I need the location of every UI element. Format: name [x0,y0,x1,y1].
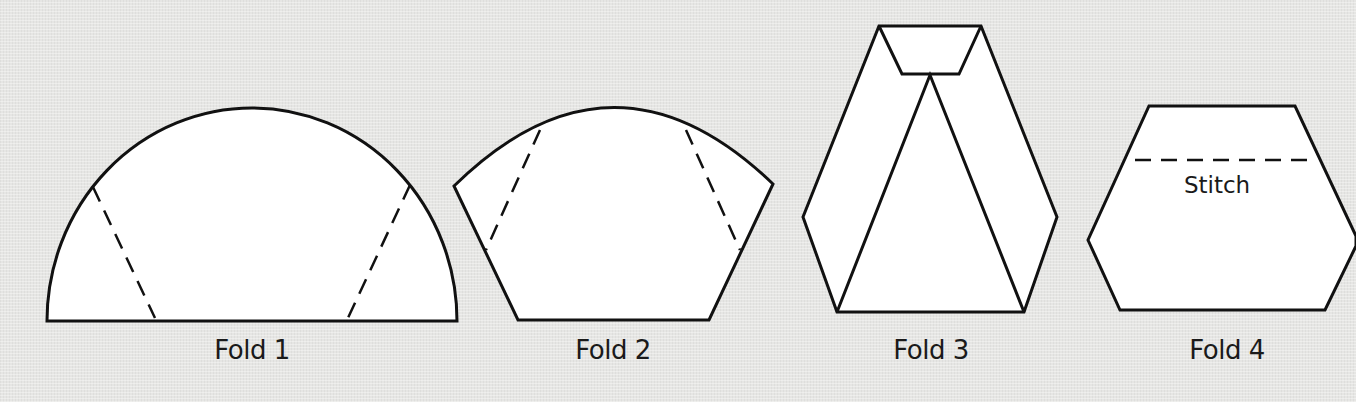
fold-2-label: Fold 2 [575,335,650,365]
fold-3-shape [803,26,1057,312]
fold-2-shape [454,107,773,320]
fold-4-label: Fold 4 [1189,335,1264,365]
fold-diagram [0,0,1356,402]
stitch-annotation: Stitch [1184,172,1250,198]
fold-3-label: Fold 3 [893,335,968,365]
fold-1-label: Fold 1 [214,335,289,365]
fold-4-shape [1088,106,1356,310]
fold-1-shape [47,108,457,321]
